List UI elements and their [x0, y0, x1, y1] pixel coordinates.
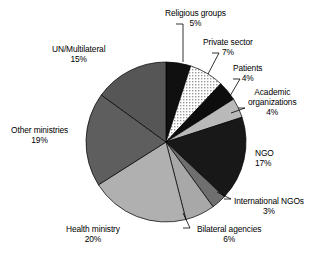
- slice-label-percent: 4%: [248, 107, 297, 117]
- slice-label-ngo: NGO 17%: [255, 148, 274, 168]
- slice-label-percent: 7%: [203, 47, 253, 57]
- slice-label-name: NGO: [255, 148, 274, 158]
- slice-label-health-ministry: Health ministry 20%: [66, 224, 120, 244]
- slice-label-name-line1: Academic: [248, 87, 297, 97]
- slice-label-international-ngos: International NGOs 3%: [234, 196, 304, 216]
- slice-label-name: Private sector: [203, 37, 253, 47]
- slice-label-percent: 19%: [11, 135, 68, 145]
- slice-label-percent: 4%: [233, 73, 262, 83]
- slice-label-name: Patients: [233, 63, 262, 73]
- slice-label-name: UN/Multilateral: [52, 44, 105, 54]
- slice-label-un-multilateral: UN/Multilateral 15%: [52, 44, 105, 64]
- slice-label-percent: 20%: [66, 234, 120, 244]
- pie-chart-figure: Religious groups 5% Private sector 7% Pa…: [0, 0, 328, 260]
- slice-label-percent: 15%: [52, 54, 105, 64]
- slice-label-patients: Patients 4%: [233, 63, 262, 83]
- slice-label-percent: 5%: [165, 18, 226, 28]
- slice-label-percent: 17%: [255, 158, 274, 168]
- slice-label-name-line2: organizations: [248, 97, 297, 107]
- slice-label-name: Religious groups: [165, 8, 226, 18]
- slice-label-name: Other ministries: [11, 125, 68, 135]
- slice-label-academic-organizations: Academic organizations 4%: [248, 87, 297, 118]
- slice-label-private-sector: Private sector 7%: [203, 37, 253, 57]
- slice-label-percent: 6%: [197, 234, 261, 244]
- slice-label-name: Health ministry: [66, 224, 120, 234]
- slice-label-religious-groups: Religious groups 5%: [165, 8, 226, 28]
- slice-label-name: Bilateral agencies: [197, 224, 261, 234]
- slice-label-percent: 3%: [234, 206, 304, 216]
- slice-label-other-ministries: Other ministries 19%: [11, 125, 68, 145]
- slice-label-bilateral-agencies: Bilateral agencies 6%: [197, 224, 261, 244]
- slice-label-name: International NGOs: [234, 196, 304, 206]
- pie-slices-group: [86, 62, 246, 222]
